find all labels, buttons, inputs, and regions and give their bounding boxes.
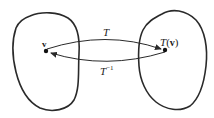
codomain-label-close: ) bbox=[175, 36, 179, 49]
forward-map-label: T bbox=[103, 26, 110, 38]
codomain-point-dot bbox=[163, 48, 167, 52]
linear-transformation-diagram: v T(v) T T−1 bbox=[0, 0, 214, 118]
inverse-map-label: T−1 bbox=[100, 64, 114, 77]
domain-set-blob bbox=[13, 13, 79, 111]
diagram-canvas: v T(v) T T−1 bbox=[0, 0, 214, 118]
codomain-set-blob bbox=[138, 11, 206, 110]
codomain-point-label: T(v) bbox=[160, 36, 179, 49]
domain-point-dot bbox=[44, 49, 48, 53]
domain-point-label: v bbox=[42, 39, 47, 49]
inverse-map-label-superscript: −1 bbox=[106, 64, 114, 72]
inverse-map-arrow bbox=[51, 52, 165, 61]
forward-map-arrow bbox=[47, 40, 161, 50]
